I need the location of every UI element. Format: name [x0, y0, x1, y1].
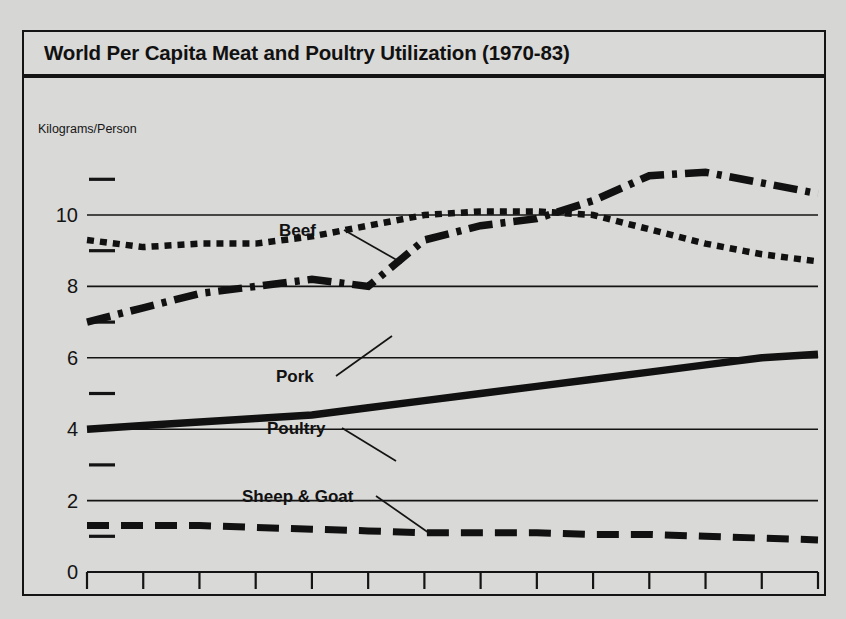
y-tick-label-4: 4	[67, 418, 78, 440]
series-label-pork: Pork	[276, 367, 314, 386]
page-title: World Per Capita Meat and Poultry Utiliz…	[44, 41, 570, 65]
series-annotations-group: BeefPorkPoultrySheep & Goat	[242, 221, 429, 533]
leader-line-poultry	[342, 428, 396, 461]
y-tick-label-6: 6	[67, 347, 78, 369]
x-axis-group	[87, 572, 818, 589]
series-label-sheep-goat: Sheep & Goat	[242, 487, 354, 506]
leader-line-sheep-goat	[376, 496, 429, 533]
series-line-beef	[87, 211, 818, 261]
series-line-sheep-goat	[87, 526, 818, 540]
series-line-poultry	[87, 354, 818, 429]
chart-figure: World Per Capita Meat and Poultry Utiliz…	[22, 30, 826, 596]
series-label-beef: Beef	[279, 221, 316, 240]
data-series-group	[87, 172, 818, 540]
y-tick-label-8: 8	[67, 275, 78, 297]
leader-line-pork	[336, 336, 392, 376]
y-tick-label-10: 10	[56, 204, 78, 226]
y-tick-label-2: 2	[67, 490, 78, 512]
plot-area: Kilograms/Person 0246810 197019751980198…	[24, 78, 824, 594]
leader-line-beef	[344, 230, 402, 263]
title-band: World Per Capita Meat and Poultry Utiliz…	[24, 32, 824, 78]
series-label-poultry: Poultry	[267, 419, 326, 438]
gridlines-group	[87, 215, 818, 501]
y-tick-labels: 0246810	[56, 204, 78, 583]
y-tick-label-0: 0	[67, 561, 78, 583]
line-chart-svg: 0246810 1970197519801983 BeefPorkPoultry…	[24, 78, 824, 594]
